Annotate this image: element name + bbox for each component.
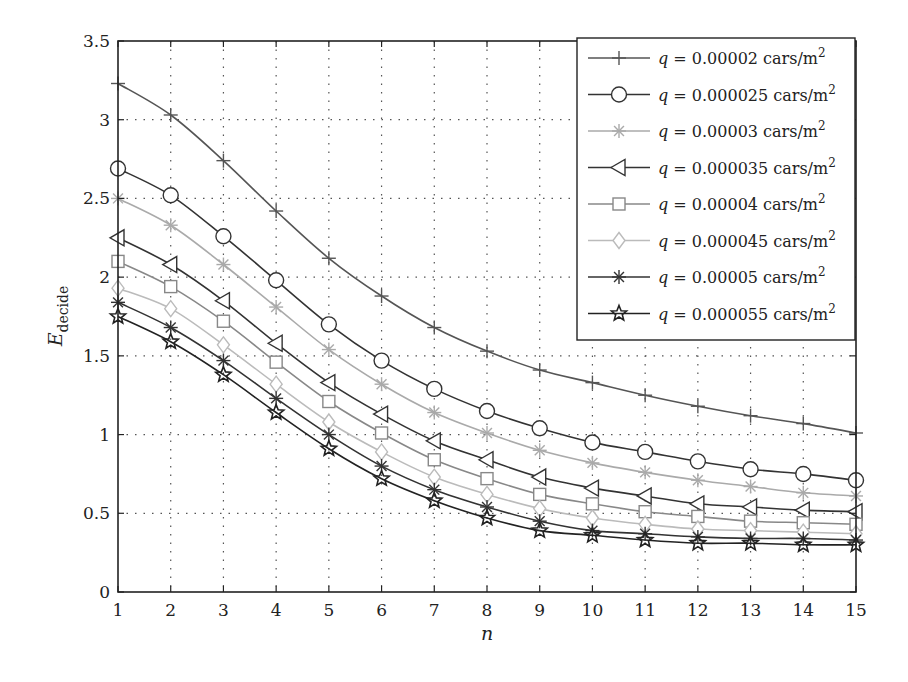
legend-label: q = 0.000035 cars/m2 <box>658 156 836 178</box>
marker-diamond-icon <box>165 301 177 317</box>
x-tick-label: 14 <box>792 600 814 620</box>
marker-plus-icon <box>744 409 758 423</box>
legend-label-superscript: 2 <box>828 83 836 97</box>
marker-square-icon <box>217 315 229 327</box>
x-tick-label: 1 <box>113 600 124 620</box>
legend-label-variable: q <box>658 122 668 141</box>
y-tick-label: 0.5 <box>83 503 110 523</box>
x-tick-label: 15 <box>845 600 867 620</box>
line-chart: 123456789101112131415 00.511.522.533.5 n… <box>0 0 908 682</box>
marker-asterisk-icon <box>533 443 547 457</box>
x-tick-label: 4 <box>271 600 282 620</box>
y-axis-label-subscript: decide <box>55 286 71 333</box>
legend-label-superscript: 2 <box>828 156 836 170</box>
x-tick-label: 8 <box>482 600 493 620</box>
marker-plus-icon <box>691 399 705 413</box>
legend-label-superscript: 2 <box>828 302 836 316</box>
legend-label-superscript: 2 <box>828 229 836 243</box>
marker-triangle-left-icon <box>743 499 757 515</box>
x-tick-label: 12 <box>687 600 709 620</box>
marker-triangle-left-icon <box>374 406 388 422</box>
marker-triangle-left-icon <box>321 375 335 391</box>
marker-square-icon <box>534 488 546 500</box>
x-tick-label: 2 <box>165 600 176 620</box>
marker-asterisk-icon <box>164 218 178 232</box>
x-tick-label: 5 <box>323 600 334 620</box>
marker-asterisk-icon <box>744 480 758 494</box>
marker-asterisk-icon <box>375 377 389 391</box>
legend-label-superscript: 2 <box>818 265 826 279</box>
marker-triangle-left-icon <box>479 452 493 468</box>
marker-square-icon <box>323 396 335 408</box>
y-tick-label: 0 <box>99 582 110 602</box>
marker-plus-icon <box>585 376 599 390</box>
marker-asterisk-icon <box>585 456 599 470</box>
marker-plus-icon <box>796 417 810 431</box>
x-tick-label: 11 <box>634 600 656 620</box>
y-tick-label: 3.5 <box>83 31 110 51</box>
y-tick-label: 3 <box>99 110 110 130</box>
marker-square-icon <box>428 454 440 466</box>
legend-label-variable: q <box>658 86 668 105</box>
legend-label-variable: q <box>658 49 668 68</box>
y-axis-label-main: E <box>44 332 66 347</box>
y-tick-label: 1 <box>99 425 110 445</box>
marker-circle-icon <box>796 466 811 481</box>
marker-triangle-left-icon <box>532 469 546 485</box>
marker-square-icon <box>270 356 282 368</box>
legend-label-variable: q <box>658 159 668 178</box>
marker-triangle-left-icon <box>848 504 862 520</box>
legend-label: q = 0.00005 cars/m2 <box>658 265 826 287</box>
y-tick-label: 2.5 <box>83 188 110 208</box>
legend-label-value: = 0.00002 cars/m <box>668 49 818 68</box>
marker-square-icon <box>376 427 388 439</box>
legend-label-value: = 0.00003 cars/m <box>668 122 818 141</box>
legend-label-variable: q <box>658 232 668 251</box>
marker-circle-icon <box>427 381 442 396</box>
legend-label-value: = 0.00004 cars/m <box>668 195 818 214</box>
y-axis-tick-labels: 00.511.522.533.5 <box>83 31 110 602</box>
x-tick-label: 7 <box>429 600 440 620</box>
marker-asterisk-icon <box>638 465 652 479</box>
legend-label-variable: q <box>658 305 668 324</box>
marker-asterisk-icon <box>480 426 494 440</box>
legend-label-value: = 0.000045 cars/m <box>668 232 828 251</box>
marker-asterisk-icon <box>427 406 441 420</box>
marker-plus-icon <box>638 388 652 402</box>
legend: q = 0.00002 cars/m2q = 0.000025 cars/m2q… <box>577 38 855 340</box>
x-tick-label: 9 <box>534 600 545 620</box>
marker-diamond-icon <box>217 337 229 353</box>
marker-asterisk-icon <box>612 270 626 284</box>
legend-label-variable: q <box>658 195 668 214</box>
marker-asterisk-icon <box>612 124 626 138</box>
marker-circle-icon <box>612 87 627 102</box>
marker-triangle-left-icon <box>110 230 124 246</box>
marker-circle-icon <box>374 353 389 368</box>
marker-circle-icon <box>269 273 284 288</box>
y-tick-label: 2 <box>99 267 110 287</box>
y-axis-label: Edecide <box>44 286 71 348</box>
legend-label-value: = 0.00005 cars/m <box>668 268 818 287</box>
marker-square-icon <box>481 473 493 485</box>
legend-label: q = 0.00004 cars/m2 <box>658 192 826 214</box>
legend-label: q = 0.000055 cars/m2 <box>658 302 836 324</box>
x-tick-label: 6 <box>376 600 387 620</box>
legend-box <box>577 38 855 340</box>
marker-diamond-icon <box>270 376 282 392</box>
x-axis-label: n <box>481 622 493 644</box>
marker-plus-icon <box>427 321 441 335</box>
marker-triangle-left-icon <box>163 257 177 273</box>
x-tick-label: 13 <box>740 600 762 620</box>
legend-label-value: = 0.000055 cars/m <box>668 305 828 324</box>
marker-circle-icon <box>480 403 495 418</box>
legend-item: q = 0.000035 cars/m2 <box>588 156 836 178</box>
marker-triangle-left-icon <box>215 293 229 309</box>
legend-label-variable: q <box>658 268 668 287</box>
legend-label-value: = 0.000025 cars/m <box>668 86 828 105</box>
marker-plus-icon <box>480 344 494 358</box>
marker-asterisk-icon <box>691 473 705 487</box>
marker-triangle-left-icon <box>426 433 440 449</box>
legend-label: q = 0.000045 cars/m2 <box>658 229 836 251</box>
marker-plus-icon <box>164 108 178 122</box>
legend-label: q = 0.00002 cars/m2 <box>658 46 826 68</box>
